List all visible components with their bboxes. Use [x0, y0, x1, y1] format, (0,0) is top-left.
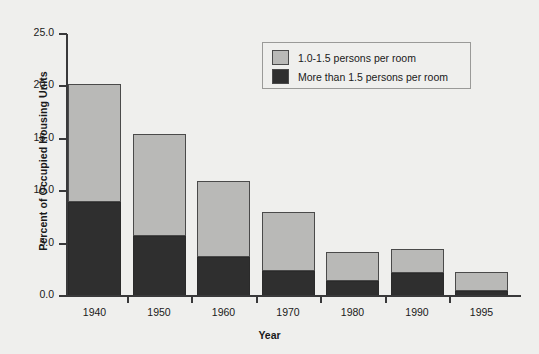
y-tick	[59, 138, 67, 140]
legend-label: More than 1.5 persons per room	[298, 71, 448, 83]
x-tick	[385, 295, 387, 303]
bar-1950	[133, 134, 186, 296]
y-tick-label: 25.0	[0, 26, 54, 38]
x-tick-label: 1990	[382, 306, 452, 318]
y-tick-label: 0.0	[0, 288, 54, 300]
legend: 1.0-1.5 persons per room More than 1.5 p…	[262, 42, 471, 89]
x-axis-line	[66, 295, 521, 297]
bar-segment-light	[133, 134, 186, 237]
bar-1960	[197, 181, 250, 296]
bar-segment-light	[455, 272, 508, 291]
x-tick-label: 1970	[253, 306, 323, 318]
x-tick-label: 1960	[189, 306, 259, 318]
y-tick	[59, 33, 67, 35]
legend-item: More than 1.5 persons per room	[272, 68, 448, 85]
bar-1980	[326, 252, 379, 296]
x-tick-label: 1980	[318, 306, 388, 318]
x-tick	[256, 295, 258, 303]
bar-1970	[262, 212, 315, 296]
legend-item: 1.0-1.5 persons per room	[272, 49, 416, 66]
x-tick	[127, 295, 129, 303]
y-tick-label: 10.0	[0, 183, 54, 195]
bar-segment-dark	[391, 273, 444, 296]
y-tick-label: 15.0	[0, 131, 54, 143]
bar-segment-light	[68, 84, 121, 201]
y-axis-title: Percent of Occupied Housing Units	[37, 26, 49, 296]
bar-segment-light	[197, 181, 250, 258]
x-axis-title: Year	[0, 329, 539, 341]
bar-segment-dark	[133, 236, 186, 296]
x-tick-label: 1950	[124, 306, 194, 318]
x-tick	[449, 295, 451, 303]
x-tick-label: 1940	[60, 306, 130, 318]
bar-segment-dark	[326, 281, 379, 296]
bar-1940	[68, 84, 121, 296]
bar-segment-dark	[68, 202, 121, 296]
bar-segment-dark	[262, 271, 315, 296]
y-tick	[59, 85, 67, 87]
y-tick-label: 20.0	[0, 78, 54, 90]
y-tick	[59, 243, 67, 245]
x-tick	[191, 295, 193, 303]
bar-segment-dark	[197, 257, 250, 296]
bar-segment-light	[262, 212, 315, 271]
y-tick-label: 5.0	[0, 236, 54, 248]
bar-1995	[455, 272, 508, 296]
y-tick	[59, 190, 67, 192]
legend-label: 1.0-1.5 persons per room	[298, 52, 416, 64]
legend-swatch-light	[272, 50, 289, 65]
bar-segment-light	[326, 252, 379, 281]
bar-1990	[391, 249, 444, 296]
legend-swatch-dark	[272, 69, 289, 84]
x-tick-label: 1995	[447, 306, 517, 318]
x-tick	[320, 295, 322, 303]
bar-segment-light	[391, 249, 444, 273]
bar-chart: Percent of Occupied Housing Units 0.05.0…	[0, 0, 539, 354]
